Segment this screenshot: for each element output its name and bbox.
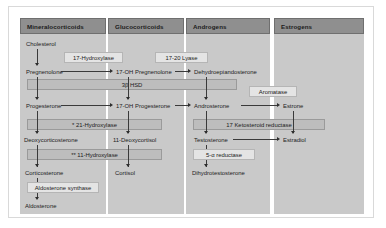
column-header-glucocorticoids-label: Glucocorticoids bbox=[115, 23, 164, 30]
metabolite-17-oh-progesterone-label: 17-OH Progesterone bbox=[116, 103, 170, 109]
enzyme-17-hydroxylase-label: 17-Hydroxylase bbox=[73, 55, 114, 61]
arrow-head-ohprogesterone-to-deoxycortisol bbox=[126, 131, 130, 134]
metabolite-11-deoxycortisol-label: 11-Deoxycortisol bbox=[113, 137, 156, 143]
metabolite-dihydrotestosterone: Dihydrotestosterone bbox=[192, 169, 245, 177]
arrow-line-ohprogesterone-to-deoxycortisol bbox=[128, 111, 129, 133]
enzyme-17-hydroxylase: 17-Hydroxylase bbox=[64, 52, 123, 63]
metabolite-estradiol-label: Estradiol bbox=[283, 137, 306, 143]
column-glucocorticoids-background bbox=[108, 18, 184, 214]
metabolite-progesterone-label: Progesterone bbox=[26, 103, 61, 109]
arrow-head-cholesterol-to-pregnenolone bbox=[35, 63, 39, 66]
arrow-line-androsterone-to-testosterone bbox=[206, 111, 207, 133]
metabolite-estrone: Estrone bbox=[283, 102, 303, 110]
enzyme-17-20-lyase: 17-20 Lyase bbox=[155, 52, 208, 63]
metabolite-pregnenolone-label: Pregnenolone bbox=[26, 69, 63, 75]
metabolite-17-oh-progesterone: 17-OH Progesterone bbox=[116, 102, 170, 110]
metabolite-dihydrotestosterone-label: Dihydrotestosterone bbox=[192, 170, 245, 176]
arrow-line-pregnenolone-to-ohpregnenolone bbox=[61, 71, 111, 72]
column-header-mineralocorticoids: Mineralocorticoids bbox=[20, 18, 106, 34]
metabolite-pregnenolone: Pregnenolone bbox=[26, 68, 63, 76]
metabolite-androsterone-label: Androsterone bbox=[194, 103, 229, 109]
column-header-estrogens: Estrogens bbox=[274, 18, 364, 34]
steroidogenesis-diagram: Mineralocorticoids Glucocorticoids Andro… bbox=[9, 7, 375, 219]
arrow-head-progesterone-to-ohprogesterone bbox=[110, 103, 113, 107]
metabolite-cortisol: Cortisol bbox=[115, 169, 135, 177]
arrow-head-doc-to-corticosterone bbox=[35, 164, 39, 167]
arrow-head-deoxycortisol-to-cortisol bbox=[126, 164, 130, 167]
arrow-line-estrone-to-estradiol bbox=[293, 111, 294, 133]
arrow-line-progesterone-to-ohprogesterone bbox=[61, 105, 111, 106]
enzyme-aldosterone-synthase-label: Aldosterone synthase bbox=[35, 185, 92, 191]
column-header-androgens: Androgens bbox=[186, 18, 270, 34]
metabolite-testosterone: Testosterone bbox=[194, 136, 228, 144]
arrow-head-ohpregnenolone-to-ohprogesterone bbox=[126, 97, 130, 100]
arrow-head-estrone-to-estradiol bbox=[291, 131, 295, 134]
enzyme-17-ketosteroid-reductase: 17 Ketosteroid reductase bbox=[193, 119, 325, 130]
metabolite-cortisol-label: Cortisol bbox=[115, 170, 135, 176]
arrow-head-ohprogesterone-to-androsterone bbox=[188, 103, 191, 107]
metabolite-corticosterone-label: Corticosterone bbox=[25, 170, 63, 176]
enzyme-11-hydroxylase: ** 11-Hydroxylase bbox=[27, 149, 162, 160]
metabolite-aldosterone: Aldosterone bbox=[25, 202, 56, 210]
arrow-line-testosterone-to-estradiol bbox=[233, 139, 278, 140]
arrow-line-ohprogesterone-to-androsterone bbox=[175, 105, 189, 106]
metabolite-testosterone-label: Testosterone bbox=[194, 137, 228, 143]
metabolite-estrone-label: Estrone bbox=[283, 103, 303, 109]
enzyme-5-alpha-reductase-label: 5-α reductase bbox=[206, 152, 242, 158]
enzyme-17-ketosteroid-reductase-label: 17 Ketosteroid reductase bbox=[226, 122, 292, 128]
enzyme-21-hydroxylase-label: * 21-Hydroxylase bbox=[72, 122, 117, 128]
metabolite-cholesterol-label: Cholesterol bbox=[26, 41, 56, 47]
arrow-head-androsterone-to-estrone bbox=[277, 103, 280, 107]
column-header-androgens-label: Androgens bbox=[193, 23, 227, 30]
enzyme-aldosterone-synthase: Aldosterone synthase bbox=[27, 182, 99, 193]
enzyme-11-hydroxylase-label: ** 11-Hydroxylase bbox=[71, 152, 118, 158]
arrow-head-progesterone-to-doc bbox=[35, 131, 39, 134]
enzyme-21-hydroxylase: * 21-Hydroxylase bbox=[27, 119, 162, 130]
arrow-head-synthase-to-aldosterone bbox=[35, 197, 39, 200]
column-header-estrogens-label: Estrogens bbox=[281, 23, 312, 30]
metabolite-aldosterone-label: Aldosterone bbox=[25, 203, 56, 209]
arrow-line-progesterone-to-doc bbox=[37, 111, 38, 133]
enzyme-aromatase: Aromatase bbox=[249, 86, 297, 97]
metabolite-17-oh-pregnenolone-label: 17-OH Pregnenolone bbox=[116, 69, 172, 75]
arrow-line-dhea-to-androsterone bbox=[206, 77, 207, 99]
arrow-head-dhea-to-androsterone bbox=[204, 97, 208, 100]
arrow-line-pregnenolone-to-progesterone bbox=[37, 77, 38, 99]
metabolite-estradiol: Estradiol bbox=[283, 136, 306, 144]
diagram-frame: Mineralocorticoids Glucocorticoids Andro… bbox=[8, 6, 374, 218]
arrow-head-testosterone-to-estradiol bbox=[277, 137, 280, 141]
metabolite-11-deoxycortisol: 11-Deoxycortisol bbox=[113, 136, 156, 144]
metabolite-androsterone: Androsterone bbox=[194, 102, 229, 110]
metabolite-cholesterol: Cholesterol bbox=[26, 40, 56, 48]
metabolite-deoxycorticosterone-label: Deoxycorticosterone bbox=[24, 137, 78, 143]
column-header-mineralocorticoids-label: Mineralocorticoids bbox=[27, 23, 84, 30]
metabolite-corticosterone: Corticosterone bbox=[25, 169, 63, 177]
enzyme-aromatase-label: Aromatase bbox=[259, 89, 287, 95]
metabolite-dehydroepiandosterone: Dehydroepiandosterone bbox=[194, 68, 257, 76]
arrow-head-pregnenolone-to-ohpregnenolone bbox=[110, 69, 113, 73]
arrow-head-testosterone-to-dht bbox=[204, 164, 208, 167]
column-header-glucocorticoids: Glucocorticoids bbox=[108, 18, 184, 34]
arrow-line-androsterone-to-estrone bbox=[241, 105, 278, 106]
metabolite-progesterone: Progesterone bbox=[26, 102, 61, 110]
arrow-line-ohpregnenolone-to-ohprogesterone bbox=[128, 77, 129, 99]
arrow-line-ohpregnenolone-to-dhea bbox=[175, 71, 189, 72]
metabolite-deoxycorticosterone: Deoxycorticosterone bbox=[24, 136, 78, 144]
metabolite-dehydroepiandosterone-label: Dehydroepiandosterone bbox=[194, 69, 257, 75]
arrow-head-ohpregnenolone-to-dhea bbox=[188, 69, 191, 73]
arrow-head-pregnenolone-to-progesterone bbox=[35, 97, 39, 100]
metabolite-17-oh-pregnenolone: 17-OH Pregnenolone bbox=[116, 68, 172, 76]
enzyme-5-alpha-reductase: 5-α reductase bbox=[193, 149, 255, 160]
enzyme-3b-hsd-label: 3β HSD bbox=[122, 82, 143, 88]
column-androgens-background bbox=[186, 18, 270, 214]
column-estrogens-background bbox=[274, 18, 364, 214]
arrow-head-androsterone-to-testosterone bbox=[204, 131, 208, 134]
enzyme-17-20-lyase-label: 17-20 Lyase bbox=[165, 55, 197, 61]
